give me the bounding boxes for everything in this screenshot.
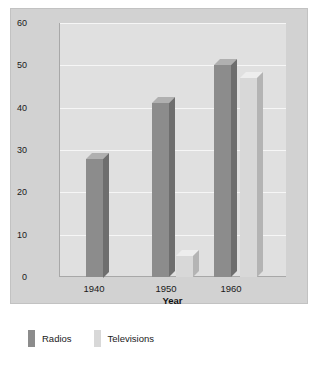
y-tick-label-50: 50 [0, 60, 27, 70]
x-tick-label-1940: 1940 [64, 283, 124, 294]
bar-side-face [257, 72, 263, 277]
legend-item-televisions: Televisions [94, 330, 154, 347]
x-tick-label-1960: 1960 [201, 283, 261, 294]
plot-area [59, 23, 286, 277]
x-tick-label-1950: 1950 [136, 283, 196, 294]
bar-side-face [103, 153, 109, 278]
y-tick-label-0: 0 [0, 272, 27, 282]
y-axis-line [59, 23, 60, 277]
gridline-50 [59, 65, 286, 66]
bar-side-face [193, 250, 199, 277]
gridline-60 [59, 23, 286, 24]
y-tick-label-40: 40 [0, 103, 27, 113]
legend-swatch-televisions [94, 330, 101, 347]
bar-side-face [169, 97, 175, 277]
bar-side-face [231, 59, 237, 277]
bar-front-face [86, 159, 103, 278]
bar-front-face [152, 103, 169, 277]
y-tick-label-20: 20 [0, 187, 27, 197]
bar-televisions-1950 [176, 256, 193, 277]
bar-radios-1940 [86, 159, 103, 278]
bar-front-face [240, 78, 257, 277]
chart-frame: Number of households (in thousands) 0 10… [10, 8, 308, 304]
x-axis-title: Year [59, 295, 286, 306]
chart-figure: Number of households (in thousands) 0 10… [0, 0, 322, 366]
y-tick-label-60: 60 [0, 18, 27, 28]
bar-televisions-1960 [240, 78, 257, 277]
bar-front-face [176, 256, 193, 277]
chart-legend: Radios Televisions [28, 330, 154, 347]
bar-front-face [214, 65, 231, 277]
legend-item-radios: Radios [28, 330, 72, 347]
y-tick-label-10: 10 [0, 230, 27, 240]
legend-label-televisions: Televisions [108, 333, 154, 344]
legend-label-radios: Radios [42, 333, 72, 344]
legend-swatch-radios [28, 330, 35, 347]
bar-radios-1950 [152, 103, 169, 277]
y-tick-label-30: 30 [0, 145, 27, 155]
bar-radios-1960 [214, 65, 231, 277]
